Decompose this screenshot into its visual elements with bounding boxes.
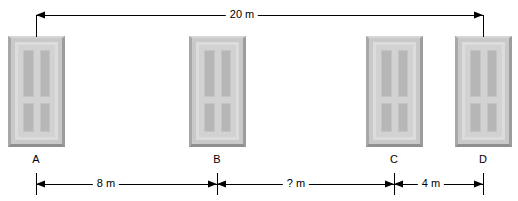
dimension-total-span <box>36 12 483 37</box>
door-panel <box>381 50 392 97</box>
door-panel <box>487 103 498 132</box>
door-panel <box>487 50 498 97</box>
door-label-d: D <box>473 153 493 165</box>
door-c <box>366 36 423 147</box>
door-panel <box>23 50 34 97</box>
dimension-label-span-c-d: 4 m <box>418 177 444 189</box>
door-panel <box>381 103 392 132</box>
door-frame <box>196 42 239 140</box>
door-panel <box>40 103 51 132</box>
door-frame <box>373 42 416 140</box>
door-panel <box>398 50 409 97</box>
door-panel <box>470 50 481 97</box>
door-panel <box>23 103 34 132</box>
door-frame <box>15 42 58 140</box>
dimension-label-span-b-c: ? m <box>283 177 309 189</box>
dimension-lines <box>0 0 518 201</box>
door-d <box>455 36 512 147</box>
door-panel <box>221 50 232 97</box>
door-panels <box>204 50 231 132</box>
door-panels <box>470 50 497 132</box>
door-panel <box>40 50 51 97</box>
dimension-label-span-a-b: 8 m <box>93 177 119 189</box>
door-panel <box>470 103 481 132</box>
door-label-a: A <box>26 153 46 165</box>
door-panel <box>398 103 409 132</box>
door-panel <box>204 50 215 97</box>
door-panels <box>381 50 408 132</box>
door-panel <box>221 103 232 132</box>
door-label-c: C <box>384 153 404 165</box>
door-b <box>189 36 246 147</box>
door-a <box>8 36 65 147</box>
dimension-label-total-span: 20 m <box>226 8 258 20</box>
dimension-span-a-b <box>36 181 217 188</box>
door-frame <box>462 42 505 140</box>
door-panel <box>204 103 215 132</box>
door-distance-diagram: ABCD 20 m8 m? m4 m <box>0 0 518 201</box>
door-panels <box>23 50 50 132</box>
door-label-b: B <box>207 153 227 165</box>
